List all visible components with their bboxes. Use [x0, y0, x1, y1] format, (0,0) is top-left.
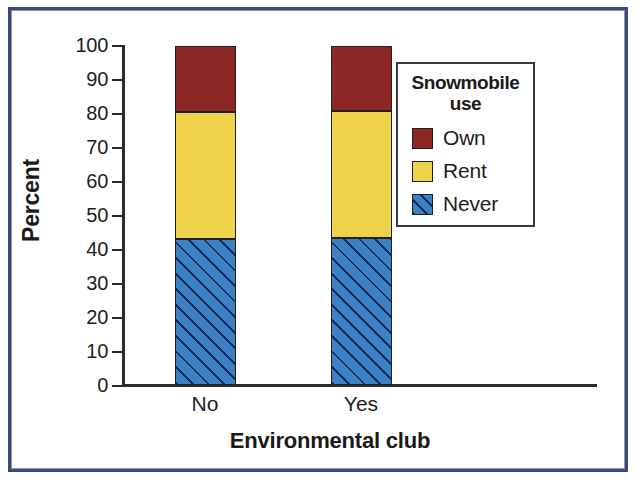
chart-plot-area: 0102030405060708090100 Percent Environme… — [0, 0, 640, 484]
legend-item-list: Own Rent Never — [398, 122, 533, 221]
y-axis-tick-20 — [112, 317, 123, 319]
y-axis-tick-60 — [112, 181, 123, 183]
legend-title-line-1: Snowmobile — [398, 72, 533, 93]
bar-segment-yes-rent — [331, 111, 392, 237]
y-axis-tick-label-100: 100 — [44, 34, 108, 54]
y-axis-tick-10 — [112, 351, 123, 353]
y-axis-tick-text: 50 — [46, 204, 108, 227]
legend-swatch-never-icon — [412, 194, 433, 215]
y-axis-tick-0 — [112, 385, 123, 387]
x-tick-label-no: No — [145, 392, 265, 416]
legend-item-rent: Rent — [412, 155, 533, 188]
chart-legend: Snowmobile use Own Rent Never — [396, 62, 535, 227]
y-axis-tick-text: 90 — [46, 68, 108, 91]
y-axis-tick-text: 0 — [46, 374, 108, 397]
legend-label-rent: Rent — [443, 159, 487, 183]
bar-segment-yes-own — [331, 46, 392, 112]
y-axis-tick-text: 80 — [46, 102, 108, 125]
y-axis-tick-text: 40 — [46, 238, 108, 261]
y-axis-tick-label-50: 50 — [44, 204, 108, 224]
y-axis-tick-label-60: 60 — [44, 170, 108, 190]
legend-label-own: Own — [443, 126, 486, 150]
bar-segment-no-rent — [175, 112, 236, 239]
y-axis-tick-text: 60 — [46, 170, 108, 193]
legend-label-never: Never — [443, 192, 498, 216]
y-axis-tick-90 — [112, 79, 123, 81]
figure-container: 0102030405060708090100 Percent Environme… — [0, 0, 640, 484]
y-axis-tick-label-80: 80 — [44, 102, 108, 122]
y-axis-tick-label-40: 40 — [44, 238, 108, 258]
y-axis-tick-label-30: 30 — [44, 272, 108, 292]
y-axis-tick-text: 20 — [46, 306, 108, 329]
legend-item-own: Own — [412, 122, 533, 155]
y-axis-tick-text: 70 — [46, 136, 108, 159]
y-axis-title: Percent — [18, 141, 45, 261]
x-axis-title: Environmental club — [122, 428, 538, 454]
legend-swatch-own-icon — [412, 128, 433, 149]
y-axis-tick-label-0: 0 — [44, 374, 108, 394]
legend-title-line-2: use — [398, 93, 533, 114]
y-axis-tick-text: 30 — [46, 272, 108, 295]
y-axis-tick-40 — [112, 249, 123, 251]
bar-segment-no-own — [175, 46, 236, 112]
bar-segment-no-never — [175, 239, 236, 386]
legend-swatch-rent-icon — [412, 161, 433, 182]
y-axis-tick-30 — [112, 283, 123, 285]
bar-segment-yes-never — [331, 238, 392, 386]
y-axis-tick-label-20: 20 — [44, 306, 108, 326]
y-axis-tick-100 — [112, 45, 123, 47]
legend-item-never: Never — [412, 188, 533, 221]
x-tick-label-yes: Yes — [301, 392, 421, 416]
y-axis-tick-80 — [112, 113, 123, 115]
y-axis-tick-text: 100 — [46, 34, 108, 57]
y-axis-tick-text: 10 — [46, 340, 108, 363]
y-axis-tick-label-10: 10 — [44, 340, 108, 360]
legend-title: Snowmobile use — [398, 72, 533, 115]
y-axis-tick-label-70: 70 — [44, 136, 108, 156]
y-axis-tick-70 — [112, 147, 123, 149]
y-axis-tick-50 — [112, 215, 123, 217]
y-axis-tick-label-90: 90 — [44, 68, 108, 88]
